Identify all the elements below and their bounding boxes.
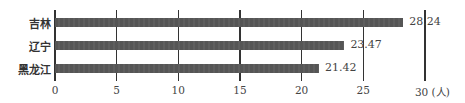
bar — [55, 41, 344, 50]
category-label: 黑龙江 — [18, 61, 51, 77]
bar — [55, 18, 403, 27]
x-tick-label: 0 — [52, 84, 59, 96]
x-tick-label: 15 — [233, 84, 246, 96]
category-label: 吉林 — [29, 15, 51, 31]
x-tick-label: 10 — [172, 84, 185, 96]
x-tick-label: 25 — [357, 84, 370, 96]
value-label: 28.24 — [409, 15, 441, 28]
x-tick-label: 30 (人) — [415, 84, 450, 99]
x-tick-label: 20 — [295, 84, 308, 96]
bar — [55, 64, 319, 73]
x-tick-label: 5 — [113, 84, 120, 96]
category-label: 辽宁 — [29, 38, 51, 54]
value-label: 21.42 — [325, 61, 357, 74]
value-label: 23.47 — [350, 38, 382, 51]
horizontal-bar-chart: 吉林辽宁黑龙江 28.2423.4721.42 051015202530 (人) — [0, 0, 465, 103]
